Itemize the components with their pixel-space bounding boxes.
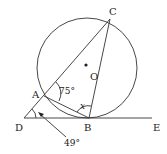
geometry-diagram: C O A B D E 75° x 49° [0, 0, 167, 154]
circle-o [37, 18, 137, 118]
angle-arc-49 [32, 109, 36, 118]
label-e: E [153, 122, 160, 133]
angle-label-75: 75° [59, 86, 75, 96]
label-d: D [15, 122, 23, 133]
angle-label-x: x [80, 101, 85, 111]
center-point-o [84, 63, 87, 66]
label-c: C [109, 6, 117, 17]
angle-label-49: 49° [64, 138, 80, 148]
chord-cb [89, 19, 110, 118]
label-b: B [84, 122, 91, 133]
label-a: A [31, 89, 40, 100]
label-o: O [90, 71, 98, 82]
